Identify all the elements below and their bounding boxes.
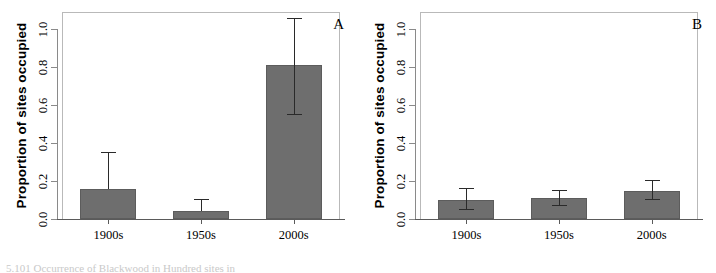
x-axis-tick-label: 1900s [78, 228, 138, 243]
y-axis-tick-label-text: 0.0 [37, 211, 52, 227]
y-axis-tick-label-text: 0.6 [37, 97, 52, 113]
y-axis-tick-label-text: 1.0 [395, 21, 410, 37]
panel-a: Proportion of sites occupied A 5.101 Occ… [0, 0, 358, 258]
y-axis-tick-label: 0.4 [391, 136, 413, 150]
x-axis-tick [652, 219, 653, 224]
error-bar-line [108, 153, 109, 189]
y-axis-tick-label: 0.6 [33, 98, 55, 112]
error-bar-cap-lower [645, 199, 660, 200]
figure-two-panel-bar-chart: Proportion of sites occupied A 5.101 Occ… [0, 0, 716, 273]
error-bar-cap-upper [101, 152, 116, 153]
x-axis-tick [466, 219, 467, 224]
y-axis-tick-label: 0.4 [33, 136, 55, 150]
x-axis-tick [108, 219, 109, 224]
bar [173, 211, 229, 219]
y-axis-tick-label-text: 0.2 [37, 173, 52, 189]
error-bar-cap-upper [459, 188, 474, 189]
error-bar-line [466, 189, 467, 211]
y-axis-tick-label-text: 0.0 [395, 211, 410, 227]
y-axis-tick-label: 0.2 [33, 174, 55, 188]
y-axis-tick-label: 0.0 [33, 212, 55, 226]
y-axis-tick-label-text: 0.2 [395, 173, 410, 189]
error-bar-line [294, 19, 295, 115]
x-axis-tick-label: 2000s [264, 228, 324, 243]
y-axis-title: Proportion of sites occupied [370, 0, 390, 230]
y-axis-title: Proportion of sites occupied [12, 0, 32, 230]
plot-area-b [420, 29, 698, 219]
y-axis-tick-label: 0.0 [391, 212, 413, 226]
y-axis-tick-label: 1.0 [391, 22, 413, 36]
y-axis-line [57, 29, 58, 220]
panel-b: Proportion of sites occupied B 0.00.20.4… [358, 0, 716, 258]
error-bar-cap-upper [552, 190, 567, 191]
x-axis-tick [201, 219, 202, 224]
y-axis-tick-label: 1.0 [33, 22, 55, 36]
error-bar-line [559, 191, 560, 206]
x-axis-tick-label: 1950s [171, 228, 231, 243]
error-bar-line [201, 200, 202, 211]
y-axis-tick-label-text: 0.4 [37, 135, 52, 151]
y-axis-tick-label: 0.8 [391, 60, 413, 74]
y-axis-tick-label-text: 0.6 [395, 97, 410, 113]
error-bar-cap-lower [459, 209, 474, 210]
error-bar-cap-upper [194, 199, 209, 200]
error-bar-cap-lower [552, 205, 567, 206]
plot-area-a [62, 29, 340, 219]
x-axis-tick-label: 2000s [622, 228, 682, 243]
bar [80, 189, 136, 219]
y-axis-tick-label-text: 1.0 [37, 21, 52, 37]
y-axis-tick-label: 0.2 [391, 174, 413, 188]
y-axis-title-text: Proportion of sites occupied [15, 22, 30, 208]
error-bar-cap-upper [287, 18, 302, 19]
x-axis-tick [294, 219, 295, 224]
x-axis-tick-label: 1900s [436, 228, 496, 243]
y-axis-line [415, 29, 416, 220]
y-axis-title-text: Proportion of sites occupied [373, 22, 388, 208]
y-axis-tick-label-text: 0.8 [37, 59, 52, 75]
x-axis-tick [559, 219, 560, 224]
error-bar-cap-upper [645, 180, 660, 181]
error-bar-line [652, 181, 653, 200]
y-axis-tick-label-text: 0.8 [395, 59, 410, 75]
y-axis-tick-label: 0.8 [33, 60, 55, 74]
y-axis-tick-label-text: 0.4 [395, 135, 410, 151]
y-axis-tick-label: 0.6 [391, 98, 413, 112]
x-axis-tick-label: 1950s [529, 228, 589, 243]
figure-caption: 5.101 Occurrence of Blackwood in Hundred… [6, 262, 706, 273]
error-bar-cap-lower [287, 114, 302, 115]
